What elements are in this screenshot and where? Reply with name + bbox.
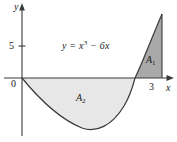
region-label-a1: A1 [146, 55, 156, 65]
equation-head: y = x [62, 40, 84, 51]
region-a2-shape [22, 78, 135, 130]
x-axis-label: x [166, 83, 170, 93]
equation-exponent: 3 [84, 39, 88, 47]
x-axis-arrow-icon [167, 75, 175, 81]
region-label-a2: A2 [76, 93, 86, 103]
plot-canvas [0, 0, 177, 142]
function-plot-figure: y x 0 5 3 A1 A2 y = x3 − 6x [0, 0, 177, 142]
y-axis-label: y [14, 2, 18, 12]
y-tick-label-5: 5 [9, 41, 14, 51]
x-tick-label-3: 3 [149, 82, 154, 92]
y-axis-arrow-icon [19, 3, 25, 11]
curve-equation-label: y = x3 − 6x [62, 41, 110, 51]
region-a1-subscript: 1 [152, 59, 156, 67]
origin-label: 0 [11, 79, 16, 89]
region-a2-subscript: 2 [82, 97, 86, 105]
equation-tail: − 6x [87, 40, 109, 51]
